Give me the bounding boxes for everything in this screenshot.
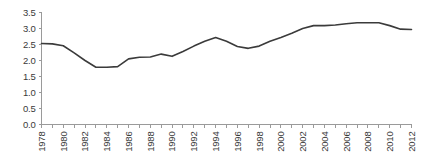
x-tick-label: 1980 bbox=[58, 132, 69, 152]
x-tick-label: 2010 bbox=[384, 132, 395, 152]
series-layer bbox=[42, 23, 412, 67]
y-tick-label: 3.5 bbox=[23, 7, 36, 18]
y-tick-label: 0.0 bbox=[23, 119, 36, 130]
y-tick-label: 3.0 bbox=[23, 23, 36, 34]
line-chart: 0.00.51.01.52.02.53.03.5 197819801982198… bbox=[0, 0, 421, 167]
x-tick-label: 2012 bbox=[406, 132, 417, 152]
x-tick-label: 1978 bbox=[36, 132, 47, 152]
y-tick-label: 1.0 bbox=[23, 87, 36, 98]
x-tick-label: 1992 bbox=[188, 132, 199, 152]
x-tick-label: 1990 bbox=[166, 132, 177, 152]
x-axis: 1978198019821984198619881990199219941996… bbox=[36, 125, 417, 152]
x-tick-label: 2008 bbox=[362, 132, 373, 152]
x-tick-label: 1986 bbox=[123, 132, 134, 152]
y-tick-label: 0.5 bbox=[23, 103, 36, 114]
y-tick-label: 2.0 bbox=[23, 55, 36, 66]
x-tick-label: 1998 bbox=[254, 132, 265, 152]
y-axis: 0.00.51.01.52.02.53.03.5 bbox=[23, 7, 42, 130]
chart-canvas: 0.00.51.01.52.02.53.03.5 197819801982198… bbox=[0, 0, 421, 167]
x-tick-label: 2002 bbox=[297, 132, 308, 152]
y-tick-label: 1.5 bbox=[23, 71, 36, 82]
series-line bbox=[42, 23, 412, 67]
x-tick-label: 2000 bbox=[275, 132, 286, 152]
x-tick-label: 1996 bbox=[232, 132, 243, 152]
x-tick-label: 2004 bbox=[319, 132, 330, 152]
x-tick-label: 1984 bbox=[101, 132, 112, 152]
x-tick-label: 2006 bbox=[341, 132, 352, 152]
x-tick-label: 1994 bbox=[210, 132, 221, 152]
x-tick-label: 1982 bbox=[79, 132, 90, 152]
x-tick-label: 1988 bbox=[145, 132, 156, 152]
y-tick-label: 2.5 bbox=[23, 39, 36, 50]
